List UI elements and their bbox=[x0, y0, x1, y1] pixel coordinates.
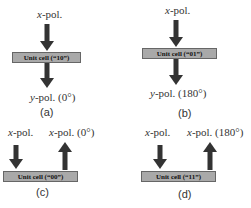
down-arrow-icon bbox=[169, 59, 183, 86]
input-label: x-pol. bbox=[145, 126, 170, 138]
panel-c: x-pol. x-pol. (0°) Unit cell (“00”) (c) bbox=[0, 120, 125, 208]
panel-caption: (a) bbox=[40, 106, 53, 118]
input-label: x-pol. bbox=[37, 8, 62, 20]
unit-cell-box: Unit cell (“10”) bbox=[12, 52, 81, 63]
unit-cell-box: Unit cell (“00”) bbox=[3, 171, 78, 182]
down-arrow-icon bbox=[40, 24, 54, 52]
panel-b: x-pol. Unit cell (“01”) y-pol. (180°) (b… bbox=[125, 0, 251, 120]
output-label: x-pol. (180°) bbox=[187, 126, 243, 138]
down-arrow-icon bbox=[169, 20, 183, 48]
down-arrow-icon bbox=[9, 145, 23, 170]
input-label: x-pol. bbox=[8, 126, 33, 138]
down-arrow-icon bbox=[40, 63, 54, 89]
panel-caption: (b) bbox=[178, 107, 191, 119]
output-label: x-pol. (0°) bbox=[49, 126, 94, 138]
unit-cell-box: Unit cell (“11”) bbox=[141, 171, 216, 182]
panel-caption: (d) bbox=[178, 188, 191, 200]
down-arrow-icon bbox=[153, 145, 167, 170]
output-label: y-pol. (180°) bbox=[150, 87, 206, 99]
panel-caption: (c) bbox=[36, 186, 49, 198]
input-label: x-pol. bbox=[165, 4, 190, 16]
output-label: y-pol. (0°) bbox=[30, 91, 75, 103]
up-arrow-icon bbox=[58, 142, 72, 170]
panel-a: x-pol. Unit cell (“10”) y-pol. (0°) (a) bbox=[0, 0, 125, 120]
unit-cell-box: Unit cell (“01”) bbox=[142, 48, 217, 59]
panel-d: x-pol. x-pol. (180°) Unit cell (“11”) (d… bbox=[125, 120, 251, 208]
up-arrow-icon bbox=[203, 142, 217, 170]
